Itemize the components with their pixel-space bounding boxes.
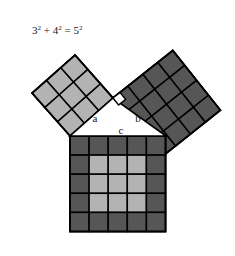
square-c-cell-dark <box>146 212 165 231</box>
side-label-a: a <box>93 112 98 124</box>
square-c-cell-light <box>127 174 146 193</box>
square-c-cell-dark <box>146 136 165 155</box>
square-c-cell-dark <box>89 212 108 231</box>
square-c-cell-dark <box>108 212 127 231</box>
square-c-cell-dark <box>70 174 89 193</box>
equation-label: 32 + 42 = 52 <box>32 24 83 36</box>
square-c-cell-light <box>89 174 108 193</box>
pythagorean-figure: 32 + 42 = 52 <box>0 0 235 256</box>
square-c-cell-dark <box>70 136 89 155</box>
square-c-cell-dark <box>146 193 165 212</box>
square-c-cell-dark <box>70 155 89 174</box>
square-c-cell-light <box>89 155 108 174</box>
square-c-cell-light <box>127 155 146 174</box>
square-c-cell-dark <box>108 136 127 155</box>
side-label-b: b <box>135 112 141 124</box>
square-c <box>70 136 166 232</box>
square-c-cell-dark <box>127 212 146 231</box>
square-c-cell-light <box>108 174 127 193</box>
square-c-cell-light <box>108 193 127 212</box>
pythagorean-diagram-canvas: 32 + 42 = 52 <box>0 0 235 256</box>
square-c-cell-light <box>108 155 127 174</box>
side-label-c: c <box>119 124 124 136</box>
square-c-cell-light <box>127 193 146 212</box>
square-c-cell-dark <box>70 193 89 212</box>
square-c-cell-dark <box>89 136 108 155</box>
equation-text: 32 + 42 = 52 <box>32 24 83 36</box>
square-c-cell-dark <box>127 136 146 155</box>
square-c-cells <box>70 136 166 232</box>
square-c-cell-light <box>89 193 108 212</box>
square-c-cell-dark <box>146 155 165 174</box>
square-c-cell-dark <box>70 212 89 231</box>
equation-exponent-c: 2 <box>79 24 83 32</box>
square-c-cell-dark <box>146 174 165 193</box>
